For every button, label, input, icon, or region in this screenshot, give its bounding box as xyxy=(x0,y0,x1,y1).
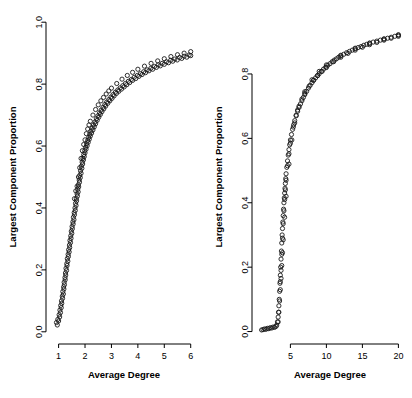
data-points xyxy=(54,50,192,328)
y-tick-label: 0.2 xyxy=(34,264,44,277)
y-tick-label: 0.0 xyxy=(34,326,44,339)
data-points xyxy=(260,33,401,332)
y-tick-label: 1.0 xyxy=(34,16,44,29)
y-tick-label: 0.8 xyxy=(34,78,44,91)
y-tick-label: 0.2 xyxy=(240,261,250,274)
x-tick-label: 6 xyxy=(188,351,193,361)
plot-area-right: 51015200.00.20.40.60.8Average DegreeLarg… xyxy=(206,0,412,398)
x-tick-label: 1 xyxy=(56,351,61,361)
x-tick-label: 5 xyxy=(162,351,167,361)
x-tick-label: 20 xyxy=(393,351,403,361)
x-tick-label: 10 xyxy=(321,351,331,361)
x-tick-label: 5 xyxy=(288,351,293,361)
y-tick-label: 0.4 xyxy=(240,197,250,210)
y-axis-label: Largest Component Proportion xyxy=(7,106,18,247)
y-tick-label: 0.4 xyxy=(34,202,44,215)
scatter-panel-left: 1234560.00.20.40.60.81.0Average DegreeLa… xyxy=(0,0,206,398)
figure-canvas: 1234560.00.20.40.60.81.0Average DegreeLa… xyxy=(0,0,412,398)
x-tick-label: 4 xyxy=(135,351,140,361)
y-tick-label: 0.8 xyxy=(240,68,250,81)
x-axis-label: Average Degree xyxy=(294,369,366,380)
x-axis-label: Average Degree xyxy=(88,369,160,380)
y-tick-label: 0.6 xyxy=(240,132,250,145)
y-tick-label: 0.6 xyxy=(34,140,44,153)
scatter-panel-right: 51015200.00.20.40.60.8Average DegreeLarg… xyxy=(206,0,412,398)
x-tick-label: 3 xyxy=(109,351,114,361)
x-tick-label: 15 xyxy=(357,351,367,361)
y-tick-label: 0.0 xyxy=(240,325,250,338)
x-tick-label: 2 xyxy=(83,351,88,361)
plot-area-left: 1234560.00.20.40.60.81.0Average DegreeLa… xyxy=(0,0,206,398)
y-axis-label: Largest Component Proportion xyxy=(213,106,224,247)
